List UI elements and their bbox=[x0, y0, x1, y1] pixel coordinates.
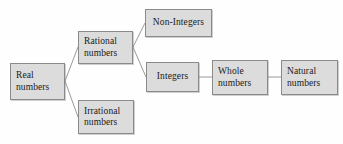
node-label-line2: numbers bbox=[16, 82, 49, 94]
node-label-line1: Real bbox=[16, 70, 34, 82]
node-real-numbers[interactable]: Real numbers bbox=[10, 63, 65, 100]
node-label-line2: numbers bbox=[84, 48, 117, 60]
node-label-line2: numbers bbox=[287, 78, 320, 90]
node-label-line2: numbers bbox=[84, 117, 117, 129]
node-label-line1: Natural bbox=[287, 66, 316, 78]
node-irrational-numbers[interactable]: Irrational numbers bbox=[78, 100, 134, 134]
node-label-line1: Integers bbox=[157, 71, 188, 83]
node-label-line1: Rational bbox=[84, 36, 117, 48]
node-label-line1: Non-Integers bbox=[153, 17, 204, 29]
node-label-line1: Irrational bbox=[84, 106, 120, 118]
node-integers[interactable]: Integers bbox=[146, 62, 199, 92]
edge-real-to-irrational bbox=[65, 81, 78, 117]
node-label-line1: Whole bbox=[218, 66, 244, 78]
node-rational-numbers[interactable]: Rational numbers bbox=[78, 31, 133, 64]
node-whole-numbers[interactable]: Whole numbers bbox=[212, 60, 268, 95]
node-label-line2: numbers bbox=[218, 78, 251, 90]
edge-real-to-rational bbox=[65, 47, 78, 81]
node-non-integers[interactable]: Non-Integers bbox=[145, 9, 212, 37]
number-system-diagram: Real numbers Rational numbers Irrational… bbox=[0, 0, 343, 144]
node-natural-numbers[interactable]: Natural numbers bbox=[281, 60, 338, 95]
edge-rational-to-non-integers bbox=[133, 23, 145, 47]
edge-rational-to-integers bbox=[133, 47, 146, 77]
